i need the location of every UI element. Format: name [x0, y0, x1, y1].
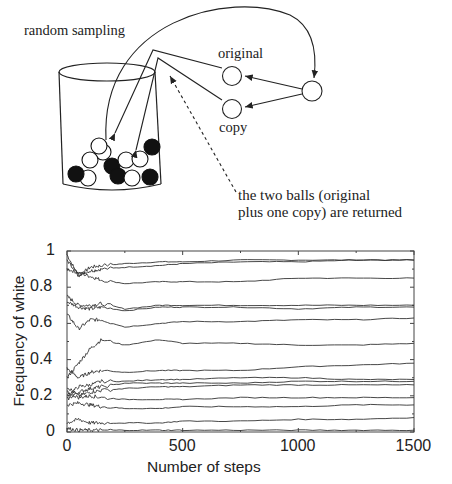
x-axis-title: Number of steps — [147, 458, 261, 476]
chart-series — [67, 255, 414, 432]
copy-ball — [223, 100, 242, 119]
drawn-ball — [302, 81, 322, 101]
series-line-run11 — [67, 385, 414, 397]
sampling-arc — [106, 7, 315, 140]
y-tick-label: 0.2 — [30, 386, 52, 404]
axis-ticks — [67, 251, 414, 432]
x-tick-label: 1000 — [280, 437, 316, 455]
series-line-run2 — [67, 260, 414, 276]
black-ball-icon — [68, 166, 84, 182]
series-line-run14 — [67, 418, 414, 425]
y-tick-label: 1 — [46, 241, 55, 259]
series-line-run4 — [67, 295, 414, 309]
label-copy: copy — [219, 119, 247, 136]
white-ball-icon — [124, 170, 140, 186]
original-ball — [223, 67, 242, 86]
series-line-run7 — [67, 339, 414, 378]
label-returned-line2: plus one copy) are returned — [238, 204, 402, 221]
label-returned-line1: the two balls (original — [238, 187, 370, 204]
y-tick-label: 0.6 — [30, 313, 52, 331]
y-tick-label: 0 — [46, 422, 55, 440]
return-path-original — [115, 50, 222, 133]
label-random-sampling: random sampling — [24, 22, 125, 39]
y-tick-label: 0.4 — [30, 350, 52, 368]
series-line-run10 — [67, 381, 414, 400]
white-ball-icon — [91, 138, 107, 154]
series-line-run12 — [67, 391, 414, 400]
x-tick-label: 0 — [62, 437, 71, 455]
white-ball-icon — [82, 152, 98, 168]
black-ball-icon — [144, 139, 160, 155]
y-tick-label: 0.8 — [30, 277, 52, 295]
black-ball-icon — [110, 168, 126, 184]
series-line-run9 — [67, 377, 414, 396]
series-line-run3 — [67, 269, 414, 284]
series-line-run1 — [67, 255, 414, 277]
black-ball-icon — [142, 169, 158, 185]
x-tick-label: 1500 — [396, 437, 432, 455]
series-line-run5 — [67, 302, 414, 311]
urn-balls — [68, 138, 160, 186]
plot-frame — [67, 251, 414, 432]
white-ball-icon — [132, 151, 148, 167]
return-path-copy — [136, 58, 222, 150]
y-axis-wrapper: Frequency of white — [10, 332, 28, 350]
series-line-run13 — [67, 402, 414, 409]
series-line-run8 — [67, 363, 414, 378]
label-original: original — [218, 45, 263, 62]
x-tick-label: 500 — [169, 437, 196, 455]
series-line-run6 — [67, 314, 414, 330]
series-line-run15 — [67, 427, 414, 431]
y-axis-title: Frequency of white — [10, 276, 28, 407]
